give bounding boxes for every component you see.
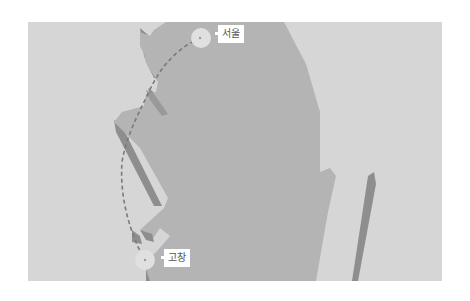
- korea-map: [28, 22, 442, 281]
- marker-gochang[interactable]: [135, 250, 155, 270]
- marker-seoul[interactable]: [191, 28, 211, 48]
- label-gochang: 고창: [164, 249, 190, 267]
- map-panel: 서울 고창: [28, 22, 442, 281]
- land-mass: [114, 22, 336, 281]
- label-seoul: 서울: [218, 25, 244, 43]
